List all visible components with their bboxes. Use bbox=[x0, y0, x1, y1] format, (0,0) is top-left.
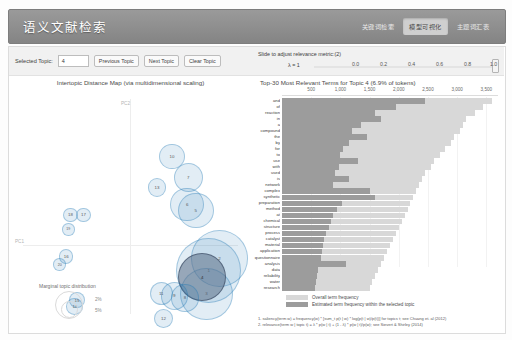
term-label[interactable]: complex bbox=[240, 188, 280, 193]
term-row[interactable]: preparation bbox=[252, 201, 504, 207]
bar-selected bbox=[282, 128, 352, 134]
term-row[interactable]: is bbox=[252, 176, 504, 182]
term-label[interactable]: at bbox=[240, 212, 280, 217]
term-row[interactable]: the bbox=[252, 134, 504, 140]
top-terms-chart[interactable]: Top-30 Most Relevant Terms for Topic 4 (… bbox=[252, 75, 504, 332]
term-label[interactable]: process bbox=[240, 230, 280, 235]
nav-item-model-visualization[interactable]: 模型可视化 bbox=[403, 18, 448, 35]
term-row[interactable]: process bbox=[252, 231, 504, 237]
term-row[interactable]: and bbox=[252, 98, 504, 104]
topic-bubble-18[interactable]: 18 bbox=[63, 208, 78, 223]
term-row[interactable]: for bbox=[252, 146, 504, 152]
term-label[interactable]: to bbox=[240, 152, 280, 157]
term-row[interactable]: analysis bbox=[252, 261, 504, 267]
term-label[interactable]: research bbox=[240, 285, 280, 290]
slider-tick-3: 0.6 bbox=[436, 61, 443, 67]
term-row[interactable]: reliability bbox=[252, 273, 504, 279]
topic-bubble-12[interactable]: 12 bbox=[154, 309, 173, 328]
term-row[interactable]: method bbox=[252, 207, 504, 213]
term-label[interactable]: reliability bbox=[240, 273, 280, 278]
term-label[interactable]: structure bbox=[240, 224, 280, 229]
term-label[interactable]: preparation bbox=[240, 200, 280, 205]
term-label[interactable]: chemical bbox=[240, 218, 280, 223]
bar-xtick-3500: 3,500 bbox=[481, 87, 493, 92]
term-row[interactable]: questionnaire bbox=[252, 255, 504, 261]
slider-tick-4: 0.8 bbox=[464, 61, 471, 67]
bar-selected bbox=[282, 146, 343, 152]
term-label[interactable]: for bbox=[240, 146, 280, 151]
term-row[interactable]: catalyst bbox=[252, 237, 504, 243]
term-row[interactable]: reaction bbox=[252, 110, 504, 116]
selected-topic-input[interactable]: 4 bbox=[58, 55, 89, 67]
term-row[interactable]: at bbox=[252, 213, 504, 219]
term-row[interactable]: used bbox=[252, 170, 504, 176]
term-label[interactable]: questionnaire bbox=[240, 255, 280, 260]
slider-tick-1: 0.2 bbox=[380, 61, 387, 67]
term-label[interactable]: the bbox=[240, 134, 280, 139]
term-label[interactable]: synthetic bbox=[240, 194, 280, 199]
term-label[interactable]: and bbox=[240, 98, 280, 103]
term-label[interactable]: analysis bbox=[240, 261, 280, 266]
term-label[interactable]: of bbox=[240, 104, 280, 109]
bar-selected bbox=[282, 158, 358, 164]
term-label[interactable]: water bbox=[240, 279, 280, 284]
term-row[interactable]: synthetic bbox=[252, 195, 504, 201]
intertopic-distance-map[interactable]: Intertopic Distance Map (via multidimens… bbox=[9, 75, 252, 332]
topic-bubble-17[interactable]: 17 bbox=[76, 208, 91, 223]
term-row[interactable]: water bbox=[252, 279, 504, 285]
bar-selected bbox=[282, 273, 317, 279]
chart-footnotes: 1. saliency(term w) = frequency(w) * [su… bbox=[258, 316, 446, 328]
term-row[interactable]: structure bbox=[252, 225, 504, 231]
nav-item-keyword-search[interactable]: 关键词检索 bbox=[356, 18, 401, 35]
next-topic-button[interactable]: Next Topic bbox=[144, 55, 179, 67]
term-label[interactable]: catalyst bbox=[240, 236, 280, 241]
term-label[interactable]: network bbox=[240, 182, 280, 187]
term-row[interactable]: compound bbox=[252, 128, 504, 134]
bar-selected bbox=[282, 237, 324, 243]
bar-selected bbox=[282, 182, 333, 188]
term-label[interactable]: in bbox=[240, 116, 280, 121]
term-row[interactable]: network bbox=[252, 182, 504, 188]
relevance-slider[interactable]: Slide to adjust relevance metric:(2) λ =… bbox=[252, 47, 504, 75]
term-label[interactable]: with bbox=[240, 164, 280, 169]
term-label[interactable]: by bbox=[240, 140, 280, 145]
term-row[interactable]: chemical bbox=[252, 219, 504, 225]
term-label[interactable]: application bbox=[240, 248, 280, 253]
previous-topic-button[interactable]: Previous Topic bbox=[94, 55, 139, 67]
term-row[interactable]: of bbox=[252, 104, 504, 110]
footnote-relevance: 2. relevance(term w | topic t) = λ * p(w… bbox=[258, 322, 446, 328]
term-row[interactable]: application bbox=[252, 249, 504, 255]
term-row[interactable]: with bbox=[252, 164, 504, 170]
term-row[interactable]: use bbox=[252, 158, 504, 164]
term-row[interactable]: a bbox=[252, 122, 504, 128]
clear-topic-button[interactable]: Clear Topic bbox=[184, 55, 221, 67]
nav-item-topic-vocabulary[interactable]: 主题词汇表 bbox=[451, 18, 496, 35]
marginal-circle-2pct bbox=[61, 301, 78, 318]
topic-bubble-10[interactable]: 10 bbox=[159, 144, 184, 169]
term-row[interactable]: data bbox=[252, 267, 504, 273]
term-row[interactable]: in bbox=[252, 116, 504, 122]
term-label[interactable]: a bbox=[240, 122, 280, 127]
term-label[interactable]: material bbox=[240, 242, 280, 247]
topic-bubble-20[interactable]: 20 bbox=[53, 258, 66, 271]
term-label[interactable]: reaction bbox=[240, 110, 280, 115]
term-row[interactable]: to bbox=[252, 152, 504, 158]
bar-selected bbox=[282, 122, 361, 128]
term-label[interactable]: is bbox=[240, 176, 280, 181]
term-row[interactable]: research bbox=[252, 285, 504, 291]
chart-legend: Overall term frequency Estimated term fr… bbox=[286, 295, 414, 308]
topic-bubble-11[interactable]: 11 bbox=[150, 282, 173, 305]
term-row[interactable]: complex bbox=[252, 188, 504, 194]
term-label[interactable]: method bbox=[240, 206, 280, 211]
term-label[interactable]: use bbox=[240, 158, 280, 163]
bar-xtick-2000: 2,000 bbox=[393, 87, 405, 92]
topic-bubble-13[interactable]: 13 bbox=[148, 178, 167, 197]
term-label[interactable]: compound bbox=[240, 128, 280, 133]
term-label[interactable]: data bbox=[240, 267, 280, 272]
term-label[interactable]: used bbox=[240, 170, 280, 175]
slider-tick-0: 0.0 bbox=[352, 61, 359, 67]
topic-bubble-6[interactable]: 6 bbox=[170, 188, 204, 222]
topic-bubble-19[interactable]: 19 bbox=[62, 223, 75, 236]
term-row[interactable]: by bbox=[252, 140, 504, 146]
term-row[interactable]: material bbox=[252, 243, 504, 249]
